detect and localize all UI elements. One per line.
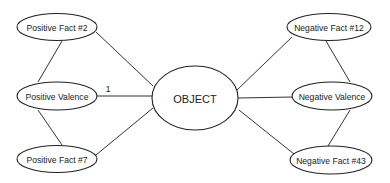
edge-neg-fact-12-to-object	[237, 37, 292, 90]
edge-object-to-neg-fact-43	[239, 110, 294, 154]
node-neg-valence: Negative Valence	[292, 82, 372, 110]
edge-pos-fact-7-to-object	[96, 108, 153, 155]
edge-pos-fact-2-to-object	[96, 32, 153, 86]
node-label: Negative Fact #12	[294, 23, 364, 33]
edge-label-weight: 1	[106, 84, 111, 94]
node-neg-fact-12: Negative Fact #12	[287, 14, 371, 41]
edge-pos-fact-2-to-pos-valence	[38, 41, 62, 82]
node-pos-valence: Positive Valence	[17, 82, 97, 110]
node-label: Positive Valence	[26, 92, 89, 102]
edge-object-to-neg-valence	[238, 97, 292, 98]
node-pos-fact-7: Positive Fact #7	[17, 146, 97, 173]
edge-neg-fact-12-to-neg-valence	[326, 41, 350, 82]
valence-diagram: 1 OBJECTPositive Fact #2Positive Valence…	[0, 0, 390, 183]
edge-pos-valence-to-pos-fact-7	[38, 110, 62, 145]
node-pos-fact-2: Positive Fact #2	[17, 14, 97, 41]
node-neg-fact-43: Negative Fact #43	[290, 146, 372, 174]
node-label: OBJECT	[173, 93, 217, 105]
node-object: OBJECT	[152, 66, 238, 130]
nodes: OBJECTPositive Fact #2Positive ValencePo…	[17, 14, 372, 175]
node-label: Positive Fact #2	[26, 23, 87, 33]
edge-neg-valence-to-neg-fact-43	[328, 110, 350, 146]
node-label: Negative Fact #43	[296, 156, 366, 166]
node-label: Negative Valence	[299, 92, 366, 102]
node-label: Positive Fact #7	[26, 155, 87, 165]
